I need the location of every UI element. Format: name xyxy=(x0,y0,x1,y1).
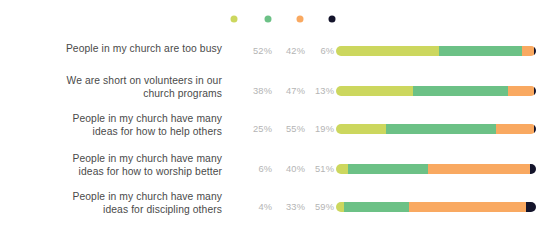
value-label: 52% xyxy=(248,46,272,56)
value-label: 55% xyxy=(281,124,305,134)
bar-segment-2[interactable] xyxy=(348,164,428,174)
chart-row: People in my church have many ideas for … xyxy=(0,148,553,182)
stacked-bar[interactable] xyxy=(336,202,536,212)
bar-segment-4[interactable] xyxy=(534,86,536,96)
legend-dot-3[interactable] xyxy=(297,16,304,23)
category-label: People in my church have many ideas for … xyxy=(14,152,222,179)
chart-row: People in my church have many ideas for … xyxy=(0,186,553,220)
legend-dot-4[interactable] xyxy=(329,16,336,23)
stacked-bar[interactable] xyxy=(336,46,536,56)
category-label: People in my church have many ideas for … xyxy=(14,190,222,217)
stacked-bar[interactable] xyxy=(336,86,536,96)
value-label: 47% xyxy=(281,86,305,96)
legend-dot-1[interactable] xyxy=(231,16,238,23)
stacked-bar-chart: People in my church are too busy52%42%6%… xyxy=(0,0,553,227)
bar-segment-1[interactable] xyxy=(336,202,344,212)
bar-segment-3[interactable] xyxy=(428,164,530,174)
chart-row: We are short on volunteers in our church… xyxy=(0,70,553,104)
value-label: 42% xyxy=(281,46,305,56)
bar-segment-1[interactable] xyxy=(336,86,413,96)
bar-segment-2[interactable] xyxy=(413,86,508,96)
chart-legend xyxy=(0,0,553,34)
category-label: People in my church have many ideas for … xyxy=(14,112,222,139)
value-label: 13% xyxy=(310,86,334,96)
bar-segment-4[interactable] xyxy=(530,164,536,174)
chart-row: People in my church have many ideas for … xyxy=(0,108,553,142)
bar-segment-1[interactable] xyxy=(336,124,386,134)
bar-segment-4[interactable] xyxy=(526,202,536,212)
bar-segment-1[interactable] xyxy=(336,164,348,174)
value-label: 59% xyxy=(310,202,334,212)
stacked-bar[interactable] xyxy=(336,124,536,134)
stacked-bar[interactable] xyxy=(336,164,536,174)
bar-segment-2[interactable] xyxy=(386,124,496,134)
bar-segment-3[interactable] xyxy=(409,202,526,212)
bar-segment-3[interactable] xyxy=(508,86,534,96)
value-label: 33% xyxy=(281,202,305,212)
chart-row: People in my church are too busy52%42%6%… xyxy=(0,38,553,72)
legend-dot-2[interactable] xyxy=(265,16,272,23)
value-label: 19% xyxy=(310,124,334,134)
bar-segment-1[interactable] xyxy=(336,46,439,56)
bar-segment-2[interactable] xyxy=(439,46,522,56)
value-label: 51% xyxy=(310,164,334,174)
value-label: 25% xyxy=(248,124,272,134)
category-label: We are short on volunteers in our church… xyxy=(14,74,222,101)
value-label: 6% xyxy=(310,46,334,56)
bar-segment-3[interactable] xyxy=(522,46,534,56)
value-label: 38% xyxy=(248,86,272,96)
bar-segment-2[interactable] xyxy=(344,202,409,212)
value-label: 6% xyxy=(248,164,272,174)
bar-segment-4[interactable] xyxy=(534,124,536,134)
value-label: 40% xyxy=(281,164,305,174)
bar-segment-3[interactable] xyxy=(496,124,534,134)
category-label: People in my church are too busy xyxy=(14,42,222,55)
value-label: 4% xyxy=(248,202,272,212)
bar-segment-4[interactable] xyxy=(534,46,536,56)
